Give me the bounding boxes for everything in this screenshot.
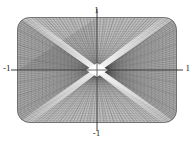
plot-area [17, 17, 177, 123]
axis-label-left: -1 [3, 64, 11, 73]
axis-label-top: 1 [0, 6, 193, 15]
mesh-clipped-group [17, 17, 177, 123]
axis-label-bottom: -1 [0, 129, 193, 138]
figure-container: 1 -1 1 -1 [0, 0, 193, 142]
mesh-surface-svg [17, 17, 177, 123]
axis-label-right: 1 [186, 64, 191, 73]
